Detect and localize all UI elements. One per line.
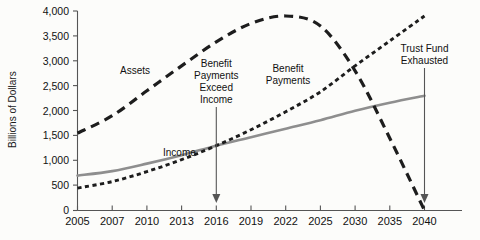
callout-trust-fund-exhausted [421,68,429,203]
x-tick-label: 2007 [100,215,124,227]
series-label-income: Income [163,147,196,158]
x-tick-label: 2010 [135,215,159,227]
x-tick-label: 2005 [65,215,89,227]
series-label-benefit-payments-line1: Benefit [272,63,303,74]
y-tick-label: 1,000 [43,154,69,166]
y-axis-title: Billions of Dollars [7,71,18,148]
x-axis-tick-labels: 2005 2007 2010 2013 2016 2019 2022 2025 … [65,215,436,227]
x-tick-label: 2013 [169,215,193,227]
series-label-benefit-payments-line2: Payments [266,75,310,86]
chart-page: Billions of Dollars 4,000 3,500 3,000 2,… [0,0,480,240]
y-tick-label: 2,500 [43,80,69,92]
social-security-projection-chart: Billions of Dollars 4,000 3,500 3,000 2,… [0,0,480,240]
x-tick-label: 2022 [273,215,297,227]
series-label-assets: Assets [120,65,150,76]
y-axis-ticks [73,11,78,211]
x-axis-ticks [78,206,425,211]
x-tick-label: 2030 [343,215,367,227]
callout-benefit-payments-exceed-income [212,107,220,203]
series-line-assets [78,16,425,211]
x-tick-label: 2019 [239,215,263,227]
annotation-trust-line1: Trust Fund [401,43,449,54]
y-tick-label: 4,000 [43,5,69,17]
annotation-trust-line2: Exhausted [401,55,448,66]
y-tick-label: 1,500 [43,129,69,141]
x-tick-label: 2016 [204,215,228,227]
x-tick-label: 2025 [308,215,332,227]
series-label-benefit-payments: Benefit Payments [266,63,310,86]
y-tick-label: 3,500 [43,30,69,42]
annotation-trust-fund-exhausted: Trust Fund Exhausted [401,43,449,66]
y-tick-label: 500 [51,179,69,191]
series-line-income [78,96,425,176]
y-tick-label: 3,000 [43,55,69,67]
y-tick-label: 2,000 [43,105,69,117]
annotation-exceed-line1: Benefit [201,58,232,69]
annotation-exceed-line4: Income [200,94,233,105]
y-axis-tick-labels: 4,000 3,500 3,000 2,500 2,000 1,500 1,00… [43,5,69,216]
annotation-benefit-payments-exceed-income: Benefit Payments Exceed Income [194,58,238,105]
annotation-exceed-line3: Exceed [200,82,233,93]
annotation-exceed-line2: Payments [194,70,238,81]
x-tick-label: 2040 [412,215,436,227]
x-tick-label: 2035 [378,215,402,227]
